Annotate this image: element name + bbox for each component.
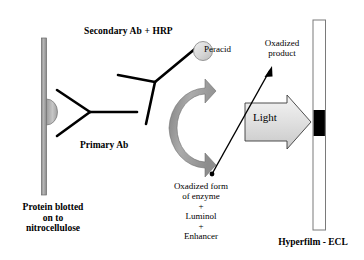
label-secondary-antibody: Secondary Ab + HRP <box>84 26 173 37</box>
label-oxidized-product: Oxadized product <box>253 38 311 58</box>
film-exposed-band <box>314 110 325 136</box>
hyperfilm-ecl-strip <box>313 20 326 230</box>
figure-canvas: Secondary Ab + HRP Peracid Oxadized prod… <box>0 0 364 260</box>
antigen-protein-spot <box>47 99 58 125</box>
label-hyperfilm-ecl: Hyperfilm - ECL <box>264 237 362 248</box>
label-primary-antibody: Primary Ab <box>80 140 128 151</box>
label-oxidized-enzyme-substrates: Oxadized form of enzyme + Luminol + Enha… <box>159 181 243 241</box>
label-protein-blotted: Protein blotted on to nitrocellulose <box>5 202 101 234</box>
nitrocellulose-membrane <box>42 38 47 195</box>
label-light: Light <box>253 111 277 123</box>
label-peracid: Peracid <box>204 44 231 54</box>
enzyme-cycle-curved-arrow <box>169 79 216 177</box>
primary-antibody <box>57 90 137 136</box>
